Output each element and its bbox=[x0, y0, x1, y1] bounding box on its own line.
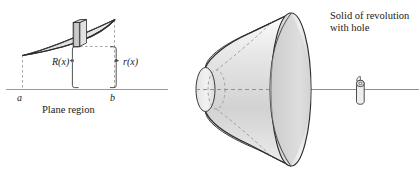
representative-washer-element bbox=[356, 77, 364, 105]
strip-side-face bbox=[80, 20, 87, 47]
caption-solid-of-revolution: Solid of revolutionwith hole bbox=[330, 10, 409, 35]
label-outer-radius: R(x) bbox=[52, 56, 69, 68]
representative-rectangle-strip bbox=[73, 20, 86, 47]
bracket-outer-radius bbox=[70, 47, 78, 88]
left-panel-plane-region bbox=[6, 20, 168, 90]
plane-region-shape bbox=[23, 20, 116, 56]
caption-solid-line1: Solid of revolution bbox=[330, 10, 409, 21]
label-inner-radius: r(x) bbox=[123, 56, 138, 68]
label-upper-bound-b: b bbox=[110, 92, 115, 104]
right-panel-solid-of-revolution bbox=[196, 13, 419, 166]
caption-plane-region: Plane region bbox=[42, 104, 95, 116]
washer-method-figure: a b R(x) r(x) Plane region Solid of revo… bbox=[0, 0, 419, 179]
label-lower-bound-a: a bbox=[17, 92, 22, 104]
caption-solid-line2: with hole bbox=[330, 22, 369, 33]
outer-boundary-curve bbox=[23, 20, 116, 56]
washer-hole-ellipse bbox=[359, 82, 362, 84]
inner-boundary-curve bbox=[23, 20, 116, 56]
strip-front-face bbox=[73, 23, 80, 47]
